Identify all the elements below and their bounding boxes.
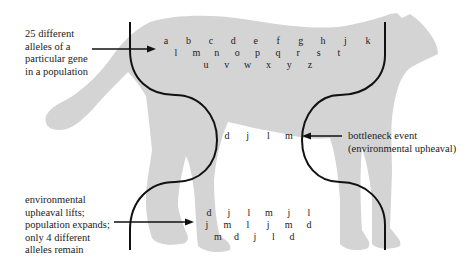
original-population-label: 25 different alleles of a particular gen… [25,28,135,78]
allele: q [273,47,283,59]
recovered-alleles-row: m d j l d [213,231,297,243]
allele: l [304,207,314,219]
allele: k [363,35,373,47]
allele: r [293,47,303,59]
recovered-alleles-row: j m l j m d [202,219,314,231]
allele: p [253,47,263,59]
allele: l [269,231,279,243]
recovered-alleles-row: d j l m j l [204,207,314,219]
allele: j [284,207,294,219]
bottleneck-event-label: bottleneck event (environmental upheaval… [348,130,476,155]
allele: b [183,35,193,47]
allele: a [161,35,171,47]
allele: j [224,207,234,219]
allele: j [250,231,260,243]
allele: w [243,59,253,71]
allele: d [232,231,242,243]
allele: m [284,219,294,231]
allele: v [222,59,232,71]
allele: g [296,35,306,47]
recovered-population-label: environmental upheaval lifts; population… [25,194,125,257]
allele: d [222,130,232,142]
original-alleles-row: u v w x y z [201,59,315,71]
bottleneck-alleles-row: d j l m [222,130,294,142]
allele: c [206,35,216,47]
allele: m [264,207,274,219]
allele: d [228,35,238,47]
allele: z [305,59,315,71]
allele: l [244,207,254,219]
allele: u [201,59,211,71]
bottleneck-diagram: 25 different alleles of a particular gen… [0,0,476,265]
allele: m [191,47,201,59]
allele: j [243,130,253,142]
allele: m [222,219,232,231]
allele: j [263,219,273,231]
allele: d [287,231,297,243]
allele: o [232,47,242,59]
allele: f [273,35,283,47]
allele: l [243,219,253,231]
allele: s [314,47,324,59]
allele: j [341,35,351,47]
allele: n [212,47,222,59]
allele: m [213,231,223,243]
allele: l [263,130,273,142]
allele: l [171,47,181,59]
allele: x [263,59,273,71]
allele: m [284,130,294,142]
original-alleles-row: l m n o p q r s t [171,47,344,59]
allele: h [318,35,328,47]
allele: e [251,35,261,47]
allele: t [334,47,344,59]
allele: y [284,59,294,71]
original-alleles-row: a b c d e f g h j k [161,35,373,47]
allele: d [204,207,214,219]
allele: d [304,219,314,231]
allele: j [202,219,212,231]
